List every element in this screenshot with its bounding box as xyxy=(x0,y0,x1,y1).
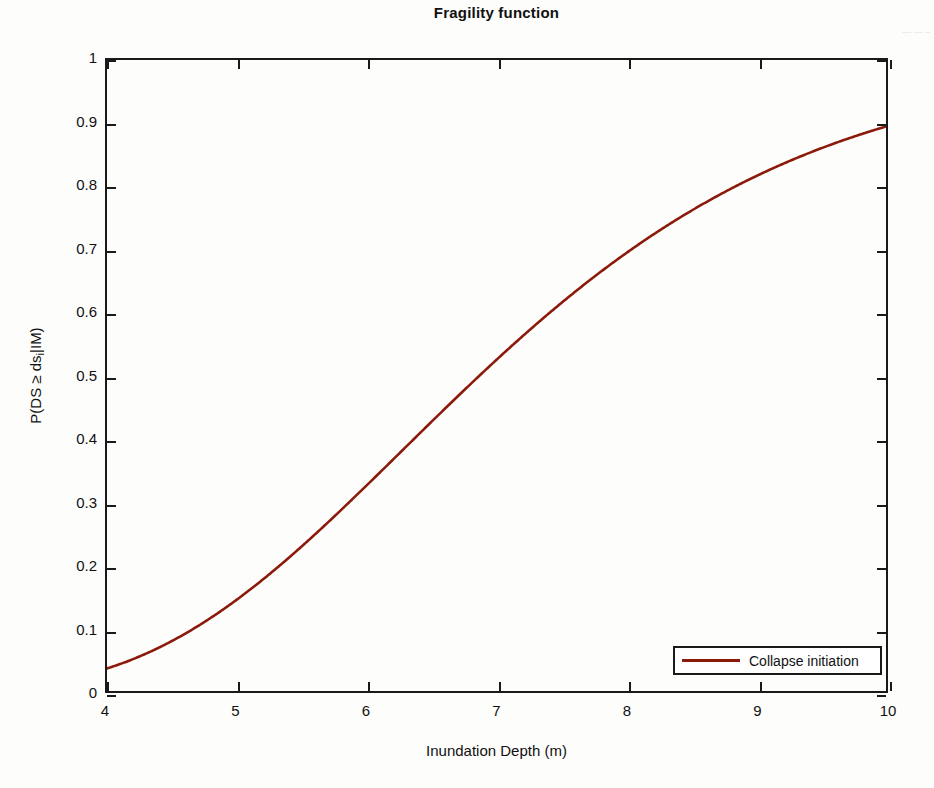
x-axis-tick-label: 8 xyxy=(597,702,657,719)
y-axis-tick xyxy=(877,60,886,62)
x-axis-tick xyxy=(499,682,501,691)
y-axis-tick xyxy=(107,187,116,189)
y-axis-tick-label: 0.1 xyxy=(37,621,97,638)
fragility-function-figure: Fragility function 00.10.20.30.40.50.60.… xyxy=(0,0,934,788)
y-axis-tick xyxy=(107,124,116,126)
x-axis-tick-label: 9 xyxy=(728,702,788,719)
y-axis-tick xyxy=(877,187,886,189)
page-margin-marks: — — – xyxy=(902,26,930,90)
chart-title: Fragility function xyxy=(105,4,888,21)
y-axis-tick xyxy=(877,378,886,380)
y-axis-tick-label: 0 xyxy=(37,684,97,701)
y-axis-tick xyxy=(107,568,116,570)
x-axis-tick-label: 5 xyxy=(206,702,266,719)
x-axis-tick xyxy=(629,682,631,691)
x-axis-tick xyxy=(760,60,762,69)
legend-entry-label: Collapse initiation xyxy=(749,653,859,669)
y-axis-tick-label: 0.9 xyxy=(37,113,97,130)
y-axis-tick-label: 0.7 xyxy=(37,240,97,257)
y-axis-tick-label: 0.3 xyxy=(37,494,97,511)
y-axis-title-subscript: i xyxy=(34,353,46,355)
y-axis-tick-label: 0.2 xyxy=(37,557,97,574)
y-axis-tick xyxy=(877,314,886,316)
y-axis-tick xyxy=(877,632,886,634)
y-axis-tick-label: 1 xyxy=(37,49,97,66)
x-axis-tick xyxy=(107,60,109,69)
y-axis-tick xyxy=(107,378,116,380)
y-axis-tick xyxy=(877,695,886,697)
y-axis-tick xyxy=(877,505,886,507)
y-axis-title: P(DS ≥ dsi|IM) xyxy=(27,226,44,526)
y-axis-tick xyxy=(877,441,886,443)
y-axis-tick-label: 0.4 xyxy=(37,430,97,447)
x-axis-tick xyxy=(890,60,892,69)
x-axis-tick xyxy=(238,60,240,69)
x-axis-tick-label: 10 xyxy=(858,702,918,719)
x-axis-title: Inundation Depth (m) xyxy=(105,742,888,759)
y-axis-tick xyxy=(107,251,116,253)
x-axis-tick xyxy=(890,682,892,691)
legend-box: Collapse initiation xyxy=(673,646,882,675)
y-axis-tick xyxy=(107,695,116,697)
y-axis-tick xyxy=(877,251,886,253)
x-axis-tick-label: 4 xyxy=(75,702,135,719)
plot-area xyxy=(105,58,888,693)
legend-line-swatch xyxy=(682,659,740,662)
x-axis-tick xyxy=(107,682,109,691)
x-axis-tick xyxy=(629,60,631,69)
curve-svg xyxy=(107,60,886,691)
y-axis-tick xyxy=(877,568,886,570)
y-axis-tick xyxy=(107,632,116,634)
y-axis-tick xyxy=(107,314,116,316)
x-axis-tick-label: 7 xyxy=(467,702,527,719)
x-axis-tick xyxy=(238,682,240,691)
y-axis-title-suffix: |IM) xyxy=(27,327,44,353)
y-axis-title-prefix: P(DS ≥ ds xyxy=(27,355,44,423)
fragility-curve-path xyxy=(107,127,886,669)
y-axis-tick-label: 0.6 xyxy=(37,303,97,320)
x-axis-tick xyxy=(760,682,762,691)
x-axis-tick xyxy=(499,60,501,69)
x-axis-tick-label: 6 xyxy=(336,702,396,719)
y-axis-tick xyxy=(877,124,886,126)
x-axis-tick xyxy=(368,60,370,69)
y-axis-tick xyxy=(107,505,116,507)
y-axis-tick-label: 0.8 xyxy=(37,176,97,193)
y-axis-tick-label: 0.5 xyxy=(37,367,97,384)
y-axis-tick xyxy=(107,441,116,443)
x-axis-tick xyxy=(368,682,370,691)
